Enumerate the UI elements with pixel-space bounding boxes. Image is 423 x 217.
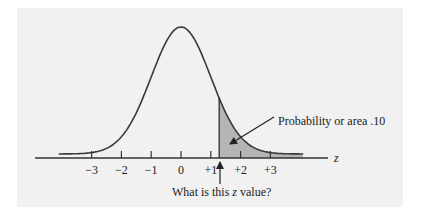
tick-label: −2 [115, 163, 128, 177]
normal-distribution-figure: −3−2−10+1+2+3 z Probability or area .10 … [0, 0, 423, 217]
tick-label: +3 [264, 163, 277, 177]
area-label: Probability or area .10 [278, 114, 385, 128]
question-label: What is this z value? [172, 185, 271, 199]
tick-label: −3 [85, 163, 98, 177]
normal-curve [59, 27, 303, 154]
tick-label: +1 [204, 163, 217, 177]
shaded-tail-area [219, 98, 303, 158]
z-axis-label: z [333, 151, 339, 165]
tick-label: 0 [178, 163, 184, 177]
tick-label: +2 [234, 163, 247, 177]
tick-label: −1 [145, 163, 158, 177]
